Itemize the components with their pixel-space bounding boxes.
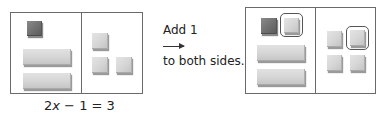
positive-unit-tile — [327, 55, 342, 71]
right-arrow-icon — [163, 46, 184, 47]
step-instruction-line2: to both sides. — [163, 54, 245, 68]
equation-label: 2x − 1 = 3 — [44, 98, 115, 113]
equation-rest: − 1 = 3 — [60, 98, 115, 113]
x-bar-tile — [257, 45, 305, 61]
added-positive-unit-tile — [284, 18, 299, 33]
mat-divider-after — [315, 7, 316, 94]
x-bar-tile — [257, 69, 305, 85]
negative-unit-tile — [261, 18, 277, 34]
x-bar-tile — [23, 49, 71, 65]
positive-unit-tile — [92, 57, 108, 73]
equation-variable: x — [52, 98, 60, 113]
negative-unit-tile — [27, 21, 42, 36]
x-bar-tile — [23, 73, 71, 89]
step-instruction-line1: Add 1 — [163, 23, 198, 37]
positive-unit-tile — [116, 57, 132, 73]
positive-unit-tile — [350, 55, 365, 71]
added-positive-unit-tile — [350, 30, 365, 46]
positive-unit-tile — [327, 31, 342, 47]
positive-unit-tile — [92, 33, 108, 49]
mat-divider-before — [81, 12, 82, 94]
